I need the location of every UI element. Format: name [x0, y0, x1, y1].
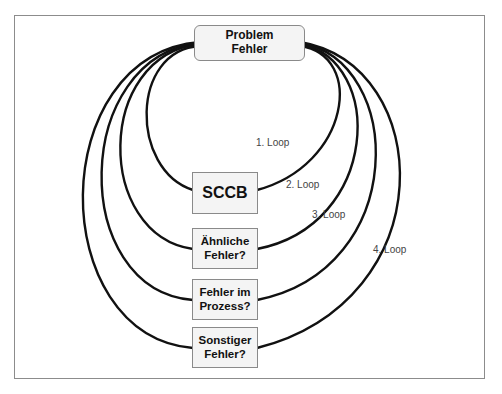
loop-1-label: 1. Loop [256, 137, 289, 148]
node-aehnliche-fehler: Ähnliche Fehler? [192, 228, 258, 269]
node-sccb: SCCB [192, 172, 258, 214]
loop-1-curve-right [257, 46, 340, 190]
loop-1-curve [147, 46, 200, 190]
node-fehler-im-prozess: Fehler im Prozess? [192, 279, 258, 320]
node-sonstiger-fehler: Sonstiger Fehler? [192, 327, 258, 368]
loop-2-label: 2. Loop [286, 179, 319, 190]
loop-4-label: 4. Loop [373, 244, 406, 255]
node-problem-fehler: Problem Fehler [194, 25, 305, 61]
loop-3-label: 3. Loop [312, 209, 345, 220]
node-sccb-label: SCCB [202, 184, 247, 202]
node-aehnliche-fehler-label: Ähnliche Fehler? [201, 235, 250, 261]
loop-4-curve-right [257, 42, 400, 348]
node-sonstiger-fehler-label: Sonstiger Fehler? [198, 334, 251, 360]
loop-4-curve [83, 42, 200, 348]
loop-3-curve [102, 43, 200, 300]
loop-2-curve [120, 44, 200, 249]
node-problem-fehler-label: Problem Fehler [225, 29, 273, 57]
loop-3-curve-right [257, 43, 376, 300]
node-fehler-im-prozess-label: Fehler im Prozess? [199, 286, 250, 312]
